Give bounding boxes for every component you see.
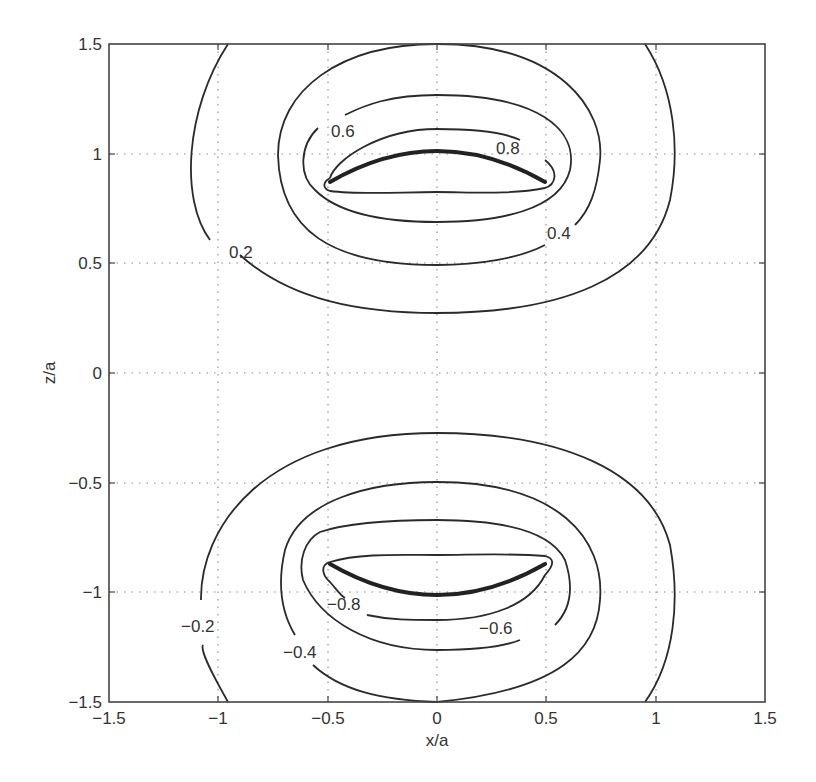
- contour-neg0.2: [201, 433, 675, 702]
- y-tick: −1.5: [68, 693, 102, 712]
- x-tick: 0: [432, 709, 441, 728]
- label-neg0.8: −0.8: [327, 595, 361, 614]
- label-0.4: 0.4: [547, 224, 571, 243]
- y-tick: −1: [83, 583, 102, 602]
- y-axis-label: z/a: [40, 361, 59, 384]
- label-0.8: 0.8: [496, 139, 520, 158]
- contour-neg0.6: [301, 520, 570, 650]
- x-tick: −0.5: [311, 709, 345, 728]
- y-tick-labels: −1.5 −1 −0.5 0 0.5 1 1.5: [68, 35, 102, 712]
- x-tick-labels: −1.5 −1 −0.5 0 0.5 1 1.5: [92, 709, 777, 728]
- contour-0.2: [191, 44, 675, 313]
- label-0.2: 0.2: [229, 243, 253, 262]
- grid: [109, 44, 765, 702]
- x-tick: 1: [651, 709, 660, 728]
- contour-plot: 0.6 0.8 0.4 0.2 −0.8 −0.6 −0.4 −0.2 −1.5: [0, 0, 816, 782]
- x-tick: 1.5: [753, 709, 777, 728]
- label-neg0.4: −0.4: [283, 643, 317, 662]
- upper-contours: [191, 44, 675, 313]
- label-neg0.6: −0.6: [479, 619, 513, 638]
- x-tick: −1: [208, 709, 227, 728]
- y-tick: 1.5: [78, 35, 102, 54]
- y-tick: 0: [93, 364, 102, 383]
- y-tick: −0.5: [68, 474, 102, 493]
- lower-plate: [330, 564, 545, 595]
- x-axis-label: x/a: [426, 731, 449, 750]
- contour-0.8: [324, 129, 554, 193]
- x-tick: 0.5: [534, 709, 558, 728]
- label-0.6: 0.6: [331, 122, 355, 141]
- lower-contours: [201, 433, 675, 702]
- label-neg0.2: −0.2: [181, 617, 215, 636]
- y-tick: 0.5: [78, 254, 102, 273]
- y-tick: 1: [93, 145, 102, 164]
